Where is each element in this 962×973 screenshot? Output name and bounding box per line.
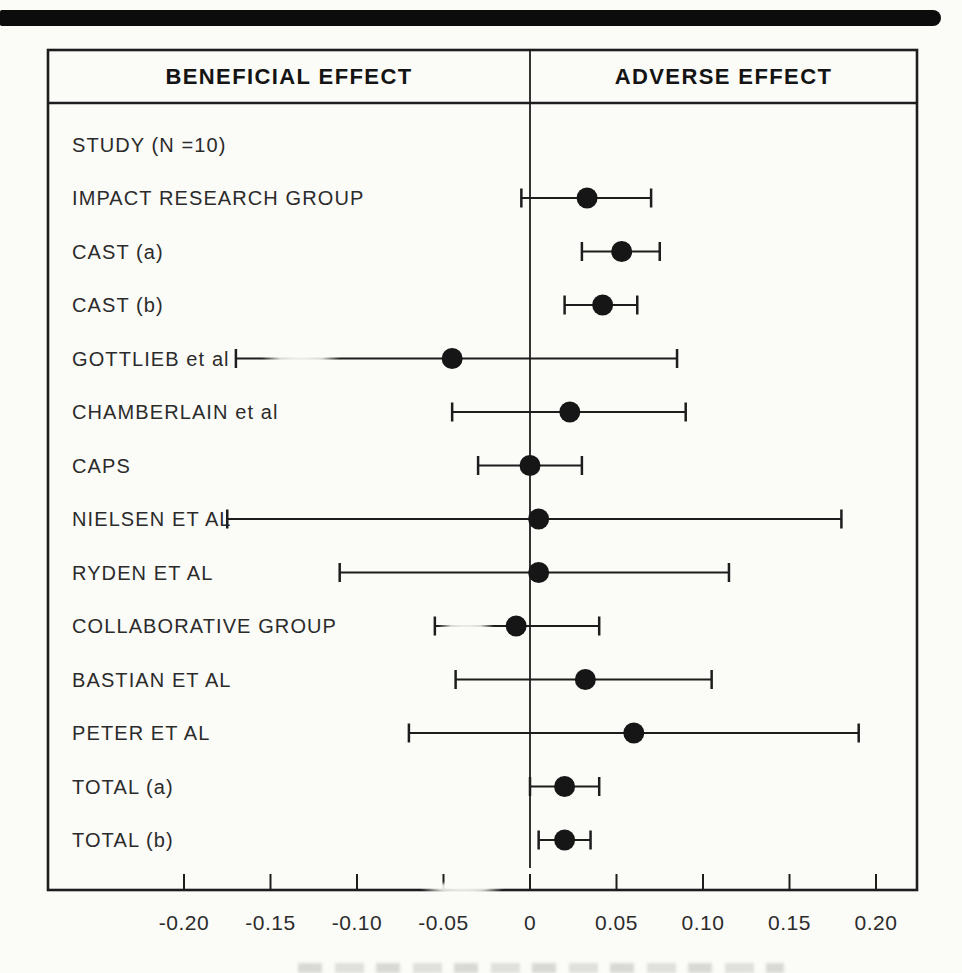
point-estimate-dot <box>611 241 632 262</box>
axis-tick-label: -0.15 <box>245 911 295 934</box>
axis-tick-label: 0.10 <box>682 911 725 934</box>
study-label: IMPACT RESEARCH GROUP <box>72 187 364 209</box>
study-label: RYDEN ET AL <box>72 562 213 584</box>
point-estimate-dot <box>554 830 575 851</box>
scanned-forest-plot-page: BENEFICIAL EFFECT ADVERSE EFFECT -0.20-0… <box>0 0 962 973</box>
study-label: GOTTLIEB et al <box>72 348 230 370</box>
header-beneficial-effect: BENEFICIAL EFFECT <box>48 58 530 96</box>
study-label: PETER ET AL <box>72 722 210 744</box>
point-estimate-dot <box>528 562 549 583</box>
study-label: TOTAL (b) <box>72 829 174 851</box>
point-estimate-dot <box>559 402 580 423</box>
study-label: NIELSEN ET AL <box>72 508 232 530</box>
point-estimate-dot <box>442 348 463 369</box>
axis-tick-label: -0.05 <box>418 911 468 934</box>
point-estimate-dot <box>520 455 541 476</box>
point-estimate-dot <box>577 188 598 209</box>
axis-tick-label: 0 <box>524 911 536 934</box>
axis-tick-label: 0.05 <box>595 911 638 934</box>
point-estimate-dot <box>506 616 527 637</box>
forest-plot-canvas: -0.20-0.15-0.10-0.0500.050.100.150.20STU… <box>0 0 962 973</box>
axis-tick-label: 0.20 <box>855 911 898 934</box>
point-estimate-dot <box>554 776 575 797</box>
study-label: BASTIAN ET AL <box>72 669 232 691</box>
point-estimate-dot <box>623 723 644 744</box>
axis-tick-label: -0.20 <box>159 911 209 934</box>
cropped-caption-artifact <box>298 963 784 973</box>
point-estimate-dot <box>592 295 613 316</box>
point-estimate-dot <box>575 669 596 690</box>
header-adverse-effect: ADVERSE EFFECT <box>530 58 917 96</box>
axis-tick-label: -0.10 <box>332 911 382 934</box>
study-label: CAST (a) <box>72 241 164 263</box>
axis-tick-label: 0.15 <box>768 911 811 934</box>
point-estimate-dot <box>528 509 549 530</box>
study-label: CAST (b) <box>72 294 164 316</box>
study-label: TOTAL (a) <box>72 776 174 798</box>
study-label: COLLABORATIVE GROUP <box>72 615 337 637</box>
plot-frame <box>48 50 917 890</box>
study-label: CHAMBERLAIN et al <box>72 401 279 423</box>
study-list-label: STUDY (N =10) <box>72 134 227 156</box>
study-label: CAPS <box>72 455 131 477</box>
